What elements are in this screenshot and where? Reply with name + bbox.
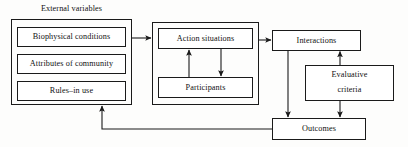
box-attributes-of-community (18, 55, 126, 74)
box-participants (159, 78, 253, 98)
diagram-canvas (0, 0, 408, 147)
box-action-situations (159, 29, 253, 49)
box-biophysical-conditions (18, 28, 126, 47)
iad-framework-diagram: External variables Biophysical condition… (0, 0, 408, 147)
box-interactions (273, 31, 361, 51)
box-evaluative-criteria (306, 66, 394, 101)
box-outcomes (273, 119, 366, 140)
box-rules-in-use (18, 82, 126, 101)
arrow-outcomes-feedback-to-external (102, 106, 272, 129)
